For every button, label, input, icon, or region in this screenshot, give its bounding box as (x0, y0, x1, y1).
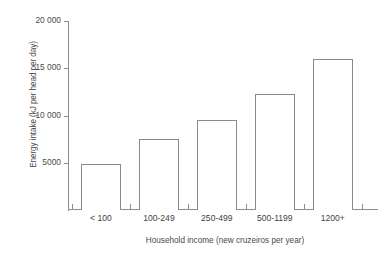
x-tick-label: 1200+ (321, 213, 345, 223)
x-tick-mark (362, 204, 363, 210)
y-axis-title: Energy intake (kJ per head per day) (29, 20, 38, 190)
y-tick-mark (64, 163, 69, 164)
y-tick-mark (64, 21, 69, 22)
x-tick-mark (188, 204, 189, 210)
bar (139, 139, 179, 210)
x-tick-label: 500-1199 (257, 213, 293, 223)
x-tick-label: 100-249 (143, 213, 175, 223)
y-tick-mark (64, 116, 69, 117)
bar (81, 164, 121, 210)
y-tick-label: 5000 (42, 157, 61, 167)
bar (255, 94, 295, 210)
x-tick-label: 250-499 (201, 213, 233, 223)
bar (313, 59, 353, 210)
y-tick-label: 15 000 (35, 62, 61, 72)
plot-area: 500010 00015 00020 000 < 100100-249250-4… (68, 21, 378, 210)
x-axis-title: Household income (new cruzeiros per year… (0, 236, 392, 245)
y-tick-label: 10 000 (35, 110, 61, 120)
x-tick-label: < 100 (90, 213, 112, 223)
x-tick-mark (304, 204, 305, 210)
x-tick-mark (72, 204, 73, 210)
x-tick-mark (246, 204, 247, 210)
bar-chart: Energy intake (kJ per head per day) 5000… (0, 0, 392, 262)
y-tick-label: 20 000 (35, 15, 61, 25)
y-tick-mark (64, 68, 69, 69)
bar (197, 120, 237, 210)
x-tick-mark (130, 204, 131, 210)
